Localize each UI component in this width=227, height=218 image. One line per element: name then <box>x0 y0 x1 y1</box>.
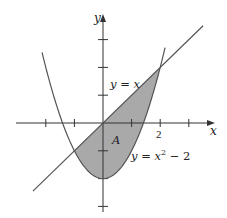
x-tick-label-2: 2 <box>156 128 162 140</box>
region-label-a: A <box>111 133 120 147</box>
y-axis-label: y <box>93 11 101 25</box>
area-between-curves-diagram: y x 2 y = x A y = x2 − 2 <box>0 0 227 218</box>
line-equation-label: y = x <box>109 77 140 91</box>
x-axis-label: x <box>210 124 217 138</box>
y-axis-arrow-icon <box>100 14 106 22</box>
parabola-equation-label: y = x2 − 2 <box>130 148 190 163</box>
